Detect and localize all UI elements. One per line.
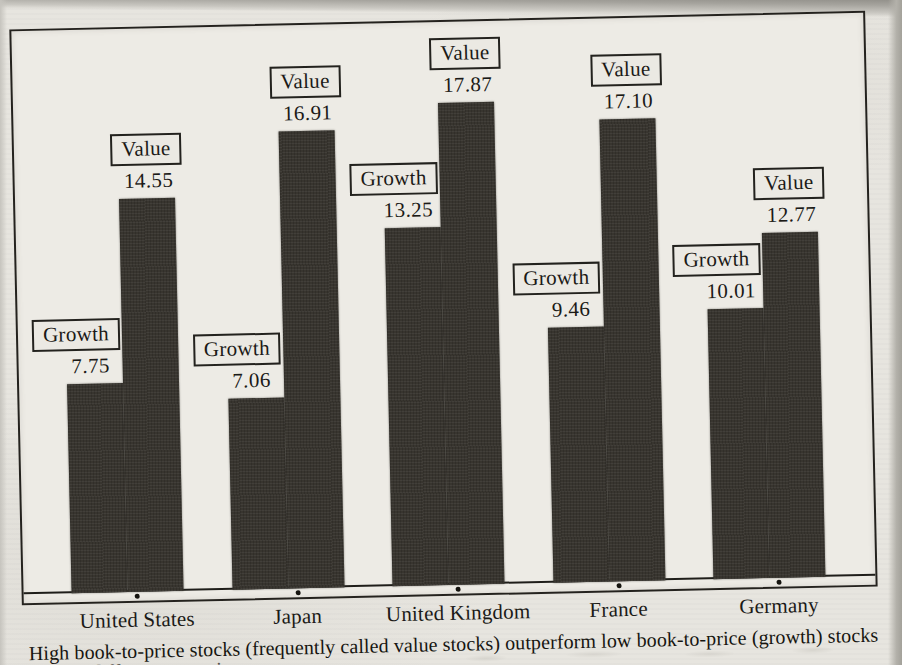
- value-bar-france: [599, 118, 665, 581]
- series-label-box: Value: [110, 133, 182, 167]
- value-bar-united-kingdom: [438, 102, 505, 585]
- value-annotation-germany: Value12.77: [753, 167, 826, 228]
- country-label-united-kingdom: United Kingdom: [386, 599, 531, 627]
- series-label-box: Value: [269, 65, 341, 99]
- growth-bar-united-kingdom: [385, 227, 449, 586]
- series-label-box: Growth: [349, 162, 438, 196]
- country-label-france: France: [589, 597, 648, 623]
- series-label-box: Growth: [512, 262, 601, 296]
- axis-tick-dot-united-kingdom: [456, 587, 461, 592]
- bar-value-label: 17.10: [593, 88, 665, 114]
- value-bar-germany: [762, 232, 826, 578]
- growth-annotation-united-states: Growth7.75: [32, 318, 121, 379]
- axis-tick-dot-germany: [776, 580, 781, 585]
- series-label-box: Growth: [32, 318, 121, 352]
- value-bar-united-states: [119, 198, 184, 592]
- growth-bar-united-states: [67, 383, 128, 593]
- plot-area: Growth7.75Value14.55Growth7.06Value16.91…: [11, 13, 875, 603]
- growth-bar-france: [547, 327, 609, 583]
- bar-value-label: 14.55: [113, 168, 185, 194]
- growth-bar-japan: [228, 398, 288, 590]
- series-label-box: Value: [590, 53, 662, 87]
- value-bar-japan: [278, 130, 344, 588]
- series-label-box: Value: [429, 37, 501, 71]
- chart-frame: Growth7.75Value14.55Growth7.06Value16.91…: [9, 11, 877, 606]
- figure: Growth7.75Value14.55Growth7.06Value16.91…: [0, 0, 889, 665]
- growth-bar-germany: [708, 308, 770, 579]
- bar-value-label: 16.91: [272, 100, 344, 126]
- growth-annotation-japan: Growth7.06: [193, 333, 282, 394]
- value-annotation-france: Value17.10: [590, 53, 663, 114]
- country-label-germany: Germany: [739, 593, 819, 620]
- axis-tick-dot-japan: [295, 590, 300, 595]
- series-label-box: Growth: [193, 333, 282, 367]
- growth-annotation-germany: Growth10.01: [672, 243, 761, 304]
- value-annotation-united-states: Value14.55: [110, 133, 183, 194]
- country-label-united-states: United States: [79, 607, 195, 635]
- growth-annotation-united-kingdom: Growth13.25: [349, 162, 438, 223]
- growth-annotation-france: Growth9.46: [512, 262, 601, 323]
- axis-tick-dot-france: [616, 583, 621, 588]
- country-label-japan: Japan: [273, 604, 322, 630]
- bar-value-label: 17.87: [432, 72, 504, 98]
- scan-right-edge: [888, 0, 902, 665]
- bar-value-label: 12.77: [756, 202, 828, 228]
- value-annotation-japan: Value16.91: [269, 65, 342, 126]
- series-label-box: Growth: [672, 243, 761, 277]
- value-annotation-united-kingdom: Value17.87: [429, 37, 502, 98]
- axis-tick-dot-united-states: [135, 594, 140, 599]
- series-label-box: Value: [753, 167, 825, 201]
